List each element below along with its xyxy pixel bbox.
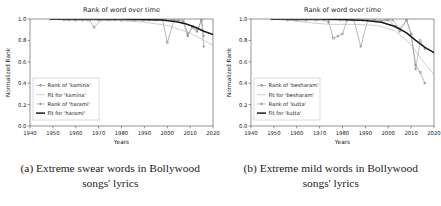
svg-text:1980: 1980: [335, 130, 349, 136]
svg-text:2010: 2010: [183, 130, 197, 136]
caption-a: (a) Extreme swear words in Bollywood son…: [0, 160, 221, 206]
svg-text:1940: 1940: [244, 130, 258, 136]
figure-panels: Rank of word over time194019501960197019…: [0, 0, 441, 160]
caption-a-line2: songs' lyrics: [0, 176, 221, 191]
svg-text:1990: 1990: [138, 130, 152, 136]
svg-text:2020: 2020: [427, 130, 441, 136]
svg-text:0.6: 0.6: [238, 59, 247, 65]
svg-text:1960: 1960: [290, 130, 304, 136]
svg-text:1970: 1970: [92, 130, 106, 136]
svg-text:1940: 1940: [23, 130, 37, 136]
svg-text:2020: 2020: [206, 130, 220, 136]
chart-b: Rank of word over time194019501960197019…: [221, 0, 441, 160]
svg-text:0.0: 0.0: [18, 123, 27, 129]
subfigure-b: Rank of word over time194019501960197019…: [221, 0, 441, 160]
svg-text:Rank of 'kutta': Rank of 'kutta': [268, 101, 306, 107]
svg-text:1980: 1980: [115, 130, 129, 136]
svg-text:Normalized Rank: Normalized Rank: [225, 47, 231, 97]
svg-text:0.2: 0.2: [18, 102, 26, 108]
svg-text:Rank of 'besharam': Rank of 'besharam': [268, 82, 318, 88]
svg-text:0.4: 0.4: [238, 80, 247, 86]
svg-text:0.0: 0.0: [238, 123, 247, 129]
svg-text:Fit for 'kamina': Fit for 'kamina': [48, 92, 86, 98]
svg-text:0.2: 0.2: [238, 102, 246, 108]
svg-text:Fit for 'besharam': Fit for 'besharam': [268, 92, 313, 98]
svg-text:1990: 1990: [358, 130, 372, 136]
svg-text:Fit for 'harami': Fit for 'harami': [48, 110, 86, 116]
svg-text:1.0: 1.0: [18, 16, 27, 22]
svg-text:2000: 2000: [161, 130, 175, 136]
captions-row: (a) Extreme swear words in Bollywood son…: [0, 160, 441, 206]
svg-text:Rank of 'kamina': Rank of 'kamina': [48, 82, 91, 88]
svg-text:Years: Years: [333, 139, 349, 145]
svg-text:0.8: 0.8: [18, 37, 27, 43]
chart-a: Rank of word over time194019501960197019…: [0, 0, 220, 160]
svg-text:0.8: 0.8: [238, 37, 247, 43]
svg-text:Rank of word over time: Rank of word over time: [303, 6, 380, 14]
svg-text:2000: 2000: [381, 130, 395, 136]
svg-text:0.4: 0.4: [18, 80, 27, 86]
svg-text:1.0: 1.0: [238, 16, 247, 22]
svg-text:1950: 1950: [267, 130, 281, 136]
caption-b-line1: (b) Extreme mild words in Bollywood: [221, 161, 441, 176]
svg-text:1950: 1950: [46, 130, 60, 136]
caption-a-line1: (a) Extreme swear words in Bollywood: [0, 161, 221, 176]
svg-text:2010: 2010: [404, 130, 418, 136]
svg-text:1970: 1970: [312, 130, 326, 136]
caption-b: (b) Extreme mild words in Bollywood song…: [221, 160, 441, 206]
svg-text:0.6: 0.6: [18, 59, 27, 65]
svg-text:Rank of 'harami': Rank of 'harami': [48, 101, 90, 107]
subfigure-a: Rank of word over time194019501960197019…: [0, 0, 221, 160]
svg-text:Years: Years: [113, 139, 129, 145]
svg-text:Normalized Rank: Normalized Rank: [5, 47, 11, 97]
caption-b-line2: songs' lyrics: [221, 176, 441, 191]
svg-text:Rank of word over time: Rank of word over time: [83, 6, 160, 14]
svg-text:1960: 1960: [69, 130, 83, 136]
svg-text:Fit for 'kutta': Fit for 'kutta': [268, 110, 301, 116]
